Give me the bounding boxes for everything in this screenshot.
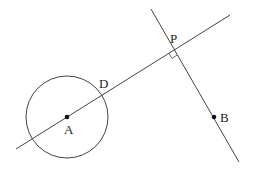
line-through-A-and-P	[16, 15, 230, 149]
label-P: P	[170, 31, 177, 46]
label-B: B	[220, 110, 229, 125]
perpendicular-line-through-P-and-B	[151, 9, 239, 162]
point-B	[212, 115, 217, 120]
point-A	[65, 115, 70, 120]
geometry-diagram: A B P D	[0, 0, 254, 174]
right-angle-marker	[169, 53, 177, 58]
label-A: A	[64, 122, 74, 137]
label-D: D	[99, 76, 108, 91]
